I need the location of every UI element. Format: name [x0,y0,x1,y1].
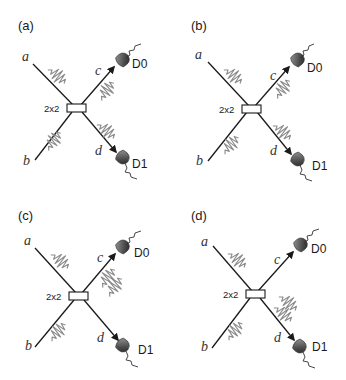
panel-b: (b) a b c d 2x2 D0 D1 [191,18,328,181]
port-a-label: a [24,233,31,248]
wave-packet-c2 [102,274,126,299]
port-b-label: b [196,153,203,168]
input-beam-a [208,62,249,106]
detector-d1-label: D1 [132,157,148,171]
wave-packet-a [221,63,246,88]
port-b-label: b [23,153,30,168]
input-beam-a [33,64,74,106]
panel-label: (c) [18,208,33,223]
detector-d1-icon [114,149,132,167]
beam-splitter [242,105,261,113]
port-c-label: c [270,68,277,83]
wave-packet-a [45,63,70,88]
hom-diagram: (a) a b c d 2x2 D0 D1 (b) a b c d 2x2 [0,0,346,380]
panel-label: (d) [191,208,207,223]
panel-a: (a) a b c d 2x2 D0 D1 [18,18,148,179]
port-b-label: b [25,338,32,353]
wave-packet-d1 [276,290,301,315]
detector-d0-cable [126,44,141,58]
wave-packet-d [270,119,295,144]
port-d-label: d [270,143,278,158]
wave-packet-a [225,247,250,272]
port-d-label: d [97,330,105,345]
detector-d1-label: D1 [312,159,328,173]
port-c-label: c [274,252,281,267]
beam-splitter [69,292,88,300]
detector-d0-label: D0 [134,246,150,260]
detector-d1-label: D1 [138,343,154,357]
input-beam-b [208,112,247,161]
port-a-label: a [195,47,202,62]
input-beam-a [213,246,252,291]
wave-packet-b [45,319,70,344]
detector-d1-cable [126,351,138,367]
panel-d: (d) a b c d 2x2 D0 D1 [191,208,328,368]
beam-splitter [246,290,265,298]
wave-packet-a [48,248,73,273]
beam-splitter-label: 2x2 [223,289,238,300]
detector-d0-cable [126,231,141,245]
port-d-label: d [95,143,103,158]
detector-d1-cable [303,352,315,368]
detector-d0-cable [300,44,314,58]
wave-packet-b [41,128,65,153]
detector-d0-label: D0 [307,61,323,75]
port-d-label: d [274,330,282,345]
detector-d0-label: D0 [311,242,327,256]
port-c-label: c [95,63,102,78]
panel-label: (b) [191,18,207,33]
detector-d1-icon [289,151,307,169]
port-b-label: b [201,339,208,354]
detector-d0-icon [289,50,307,68]
port-c-label: c [97,250,104,265]
detector-d0-label: D0 [132,57,148,71]
input-beam-b [35,300,74,347]
detector-d0-cable [304,229,319,243]
detector-d1-label: D1 [312,340,328,354]
beam-splitter [67,104,86,112]
beam-splitter-label: 2x2 [219,104,234,115]
wave-packet-c [94,78,118,103]
input-beam-b [212,298,250,348]
beam-splitter-label: 2x2 [44,103,59,114]
panel-c: (c) a b c d 2x2 D0 D1 [18,208,154,367]
port-a-label: a [22,49,29,64]
port-a-label: a [201,234,208,249]
panel-label: (a) [18,18,34,33]
beam-splitter-label: 2x2 [46,291,61,302]
detector-d1-cable [300,165,312,181]
